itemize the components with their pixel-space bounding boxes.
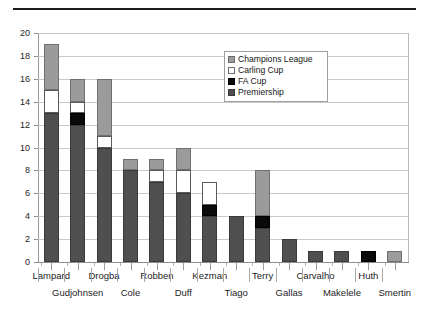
legend-swatch-champions-league-icon xyxy=(228,56,235,63)
bar-makelele[interactable] xyxy=(334,251,349,262)
bar-segment xyxy=(176,193,191,262)
bar-huth[interactable] xyxy=(361,251,376,262)
x-axis-label-robben: Robben xyxy=(127,270,187,281)
x-axis-group-separator xyxy=(329,268,330,282)
bar-cole[interactable] xyxy=(123,159,138,262)
bar-segment xyxy=(44,113,59,262)
legend-label-carling-cup: Carling Cup xyxy=(238,66,283,75)
gridline xyxy=(38,79,408,80)
x-axis-minor-tick xyxy=(200,263,201,266)
bar-gudjohnsen[interactable] xyxy=(70,79,85,262)
x-axis-minor-tick xyxy=(173,263,174,266)
x-axis-tick-mark xyxy=(395,263,396,270)
y-axis-tick-label: 10 xyxy=(0,144,30,153)
legend-label-champions-league: Champions League xyxy=(238,55,313,64)
bar-drogba[interactable] xyxy=(97,79,112,262)
bar-segment xyxy=(123,159,138,170)
y-axis-tick-mark xyxy=(34,148,38,149)
x-axis-group-separator xyxy=(276,268,277,282)
gridline xyxy=(38,148,408,149)
y-axis-tick-label: 16 xyxy=(0,75,30,84)
x-axis-tick-mark xyxy=(342,263,343,270)
x-axis-tick-mark xyxy=(131,263,132,270)
x-axis-minor-tick xyxy=(94,263,95,266)
bar-segment xyxy=(229,216,244,262)
bar-segment xyxy=(202,205,217,216)
legend-item-carling-cup: Carling Cup xyxy=(228,65,324,76)
legend-item-premiership: Premiership xyxy=(228,87,324,98)
bar-segment xyxy=(149,159,164,170)
y-axis-tick-label: 6 xyxy=(0,189,30,198)
x-axis-label-tiago: Tiago xyxy=(206,287,266,298)
chart-figure: 02468101214161820 LampardGudjohnsenDrogb… xyxy=(0,0,430,312)
x-axis-label-duff: Duff xyxy=(153,287,213,298)
bar-segment xyxy=(176,148,191,171)
x-axis-group-separator xyxy=(223,268,224,282)
bar-terry[interactable] xyxy=(255,170,270,262)
x-axis-label-lampard: Lampard xyxy=(21,270,81,281)
bar-gallas[interactable] xyxy=(282,239,297,262)
x-axis-tick-mark xyxy=(236,263,237,270)
x-axis-minor-tick xyxy=(252,263,253,266)
bar-segment xyxy=(97,148,112,263)
x-axis-group-separator xyxy=(170,268,171,282)
x-axis-group-separator xyxy=(355,268,356,282)
x-axis-minor-tick xyxy=(385,263,386,266)
y-axis-tick-mark xyxy=(34,33,38,34)
bar-smertin[interactable] xyxy=(387,251,402,262)
x-axis-minor-tick xyxy=(332,263,333,266)
bar-carvalho[interactable] xyxy=(308,251,323,262)
y-axis-tick-label: 14 xyxy=(0,98,30,107)
y-axis-tick-mark xyxy=(34,193,38,194)
bar-tiago[interactable] xyxy=(229,216,244,262)
x-axis-tick-mark xyxy=(316,263,317,270)
legend-item-fa-cup: FA Cup xyxy=(228,76,324,87)
x-axis-minor-tick xyxy=(305,263,306,266)
legend-swatch-fa-cup-icon xyxy=(228,78,235,85)
bar-segment xyxy=(70,113,85,124)
plot-right-border xyxy=(408,33,409,263)
bar-segment xyxy=(387,251,402,262)
gridline xyxy=(38,193,408,194)
x-axis-tick-mark xyxy=(157,263,158,270)
bar-segment xyxy=(255,216,270,227)
x-axis-label-carvalho: Carvalho xyxy=(286,270,346,281)
legend-swatch-premiership-icon xyxy=(228,89,235,96)
bar-robben[interactable] xyxy=(149,159,164,262)
bar-segment xyxy=(97,136,112,147)
x-axis-tick-mark xyxy=(183,263,184,270)
x-axis-minor-tick xyxy=(226,263,227,266)
x-axis-label-gudjohnsen: Gudjohnsen xyxy=(48,287,108,298)
x-axis-minor-tick xyxy=(147,263,148,266)
chart-legend: Champions League Carling Cup FA Cup Prem… xyxy=(224,51,328,102)
plot-area xyxy=(38,33,408,262)
x-axis-minor-tick xyxy=(358,263,359,266)
x-axis-group-separator xyxy=(249,268,250,282)
x-axis-group-separator xyxy=(302,268,303,282)
x-axis-label-kezman: Kezman xyxy=(180,270,240,281)
gridline xyxy=(38,56,408,57)
x-axis-group-separator xyxy=(38,268,39,282)
x-axis-minor-tick xyxy=(120,263,121,266)
x-axis-label-gallas: Gallas xyxy=(259,287,319,298)
x-axis-tick-mark xyxy=(78,263,79,270)
y-axis-tick-mark xyxy=(34,56,38,57)
y-axis-tick-label: 2 xyxy=(0,235,30,244)
y-axis-tick-label: 20 xyxy=(0,29,30,38)
y-axis-tick-mark xyxy=(34,216,38,217)
x-axis-group-separator xyxy=(197,268,198,282)
x-axis-label-makelele: Makelele xyxy=(312,287,372,298)
gridline xyxy=(38,239,408,240)
bar-duff[interactable] xyxy=(176,148,191,262)
legend-item-champions-league: Champions League xyxy=(228,54,324,65)
bar-lampard[interactable] xyxy=(44,44,59,262)
x-axis-label-terry: Terry xyxy=(233,270,293,281)
bar-kezman[interactable] xyxy=(202,182,217,262)
bar-segment xyxy=(202,216,217,262)
x-axis-label-cole: Cole xyxy=(101,287,161,298)
x-axis-tick-mark xyxy=(289,263,290,270)
bar-segment xyxy=(255,228,270,262)
y-axis-tick-label: 0 xyxy=(0,258,30,267)
y-axis-tick-mark xyxy=(34,102,38,103)
gridline xyxy=(38,33,408,34)
